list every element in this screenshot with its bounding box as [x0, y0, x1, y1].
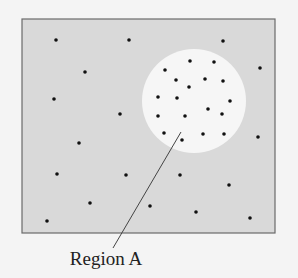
outside-point [77, 141, 81, 145]
outside-point [127, 38, 131, 42]
inside-point [228, 99, 232, 103]
inside-point [156, 114, 160, 118]
inside-point [212, 60, 216, 64]
outside-point [52, 97, 56, 101]
region-diagram: Region A [0, 0, 298, 278]
inside-point [175, 96, 179, 100]
inside-point [187, 85, 191, 89]
outside-point [258, 66, 262, 70]
outside-point [256, 135, 260, 139]
inside-point [203, 77, 207, 81]
inside-point [156, 95, 160, 99]
inside-point [206, 107, 210, 111]
inside-point [222, 132, 226, 136]
inside-point [162, 131, 166, 135]
inside-point [174, 78, 178, 82]
inside-point [220, 112, 224, 116]
outside-point [55, 172, 59, 176]
outside-point [227, 183, 231, 187]
inside-point [221, 79, 225, 83]
region-a-label: Region A [70, 248, 143, 269]
outside-point [45, 219, 49, 223]
outside-point [148, 204, 152, 208]
outside-point [83, 70, 87, 74]
inside-point [201, 132, 205, 136]
outside-point [194, 210, 198, 214]
outside-point [54, 38, 58, 42]
inside-point [183, 114, 187, 118]
inside-point [163, 68, 167, 72]
outside-point [118, 112, 122, 116]
inside-point [180, 138, 184, 142]
inside-point [188, 59, 192, 63]
outside-point [248, 216, 252, 220]
outside-point [88, 201, 92, 205]
outside-point [221, 39, 225, 43]
outside-point [124, 173, 128, 177]
outside-point [178, 173, 182, 177]
